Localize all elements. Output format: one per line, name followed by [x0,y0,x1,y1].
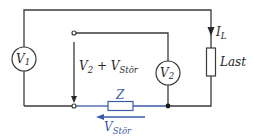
impedance-z [108,102,133,111]
inner-top-wire [76,33,168,61]
top-wire [24,10,211,48]
load-resistor [207,48,216,76]
current-label: IL [215,25,227,41]
terminal-top [72,31,76,35]
current-arrow-icon [208,27,215,36]
circuit-diagram: IL Last V1 V2 + VStör V2 Z VStör [0,0,254,139]
junction-dot [166,104,171,109]
terminal-bottom [72,104,76,108]
measured-voltage-arrow-icon [71,96,77,103]
measured-voltage-label: V2 + VStör [79,59,139,75]
load-label: Last [219,55,246,69]
interference-arrow-icon [96,114,104,120]
interference-voltage-label: VStör [104,120,132,136]
impedance-label: Z [115,88,125,102]
